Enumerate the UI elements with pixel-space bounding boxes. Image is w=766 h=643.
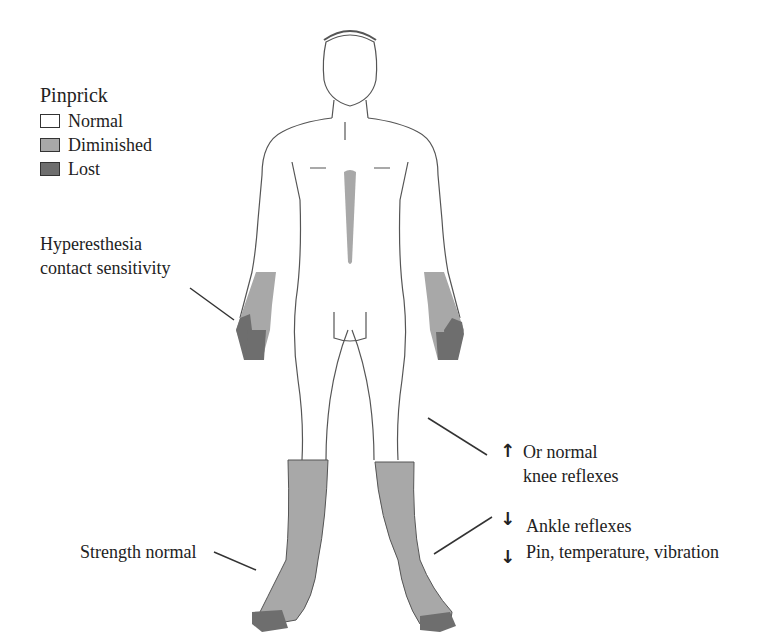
swatch-normal	[40, 114, 60, 128]
annotation-line: Hyperesthesia	[40, 232, 170, 256]
annotation-strength: Strength normal	[80, 540, 196, 564]
legend-label: Lost	[68, 159, 100, 180]
swatch-diminished	[40, 138, 60, 152]
annotation-sensation: Pin, temperature, vibration	[526, 540, 719, 564]
annotation-ankle: Ankle reflexes	[526, 514, 631, 538]
legend-item-normal: Normal	[40, 110, 123, 132]
annotation-line: Or normal	[523, 440, 618, 464]
arrow-down-icon: ↓	[500, 546, 515, 567]
annotation-knee: Or normal knee reflexes	[523, 440, 618, 488]
legend-item-lost: Lost	[40, 158, 100, 180]
annotation-line: contact sensitivity	[40, 256, 170, 280]
legend-label: Normal	[68, 111, 123, 132]
swatch-lost	[40, 162, 60, 176]
legend-label: Diminished	[68, 135, 152, 156]
arrow-up-icon: ↑	[500, 440, 515, 461]
legend-title: Pinprick	[40, 84, 108, 107]
annotation-hyperesthesia: Hyperesthesia contact sensitivity	[40, 232, 170, 280]
legend-item-diminished: Diminished	[40, 134, 152, 156]
arrow-down-icon: ↓	[500, 508, 515, 529]
annotation-line: knee reflexes	[523, 464, 618, 488]
